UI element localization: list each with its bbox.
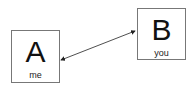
node-a-letter: A	[12, 37, 59, 67]
node-b: B you	[137, 8, 186, 60]
node-b-label: you	[138, 48, 185, 58]
node-a-label: me	[12, 70, 59, 80]
node-b-letter: B	[138, 15, 185, 45]
node-a: A me	[11, 30, 60, 83]
